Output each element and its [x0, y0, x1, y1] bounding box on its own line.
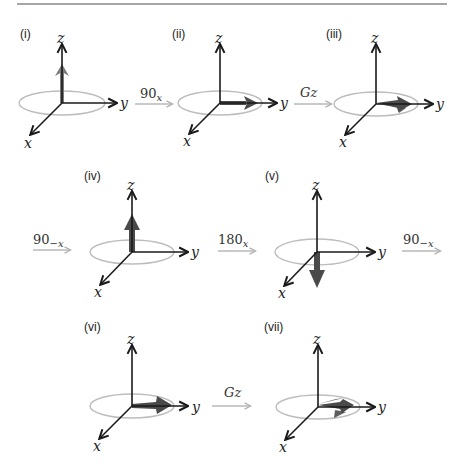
x-axis-label: x — [93, 438, 101, 454]
panel-label: (vii) — [264, 320, 283, 334]
panel-label: (v) — [265, 169, 279, 183]
pulse-arrow-90x: 90x — [135, 86, 172, 104]
panel-ii: (ii) z y x — [172, 27, 289, 149]
y-axis-label: y — [377, 244, 387, 260]
x-axis — [286, 407, 318, 439]
x-axis-label: x — [183, 133, 191, 149]
pulse-label: 180x — [218, 232, 249, 249]
x-axis — [101, 252, 132, 284]
x-axis-label: x — [279, 439, 287, 455]
pulse-arrow-gz: Gz — [294, 85, 331, 104]
y-axis-label: y — [377, 399, 387, 415]
pulse-label: Gz — [300, 85, 317, 100]
pulse-arrow-180x: 180x — [218, 232, 255, 251]
z-axis-label: z — [56, 30, 65, 46]
pulse-label: 90x — [140, 86, 163, 103]
panel-label: (ii) — [172, 27, 185, 41]
y-axis-label: y — [435, 96, 445, 112]
panel-v: (v) z y x — [265, 169, 387, 301]
panel-label: (i) — [20, 27, 31, 41]
pulse-label: 90−x — [403, 232, 434, 249]
panel-vi: (vi) z y x — [84, 320, 201, 454]
panel-iii: (iii) z y x — [326, 27, 445, 150]
pulse-label: Gz — [224, 385, 241, 400]
z-axis-label: z — [312, 331, 321, 347]
x-axis — [31, 103, 62, 134]
x-axis-label: x — [94, 284, 102, 300]
x-axis — [190, 103, 220, 133]
y-axis-label: y — [190, 244, 200, 260]
panel-vii: (vii) z y x — [264, 320, 387, 455]
z-axis-label: z — [126, 331, 135, 347]
pulse-arrow-90minusx: 90−x — [33, 232, 70, 250]
panel-iv: (iv) z y x — [84, 169, 200, 300]
z-axis-label: z — [370, 30, 379, 46]
pulse-arrow-90minusx-2: 90−x — [402, 232, 440, 251]
panel-label: (iv) — [84, 169, 101, 183]
panel-label: (vi) — [84, 320, 101, 334]
y-axis-label: y — [279, 95, 289, 111]
y-axis-label: y — [191, 399, 201, 415]
x-axis — [346, 104, 376, 134]
x-axis-label: x — [24, 135, 32, 151]
panel-label: (iii) — [326, 27, 342, 41]
z-axis-label: z — [126, 177, 135, 193]
z-axis-label: z — [311, 177, 320, 193]
x-axis-label: x — [339, 134, 347, 150]
x-axis — [100, 406, 132, 438]
z-axis-label: z — [214, 30, 223, 46]
x-axis-label: x — [278, 285, 286, 301]
panel-i: (i) z y x — [19, 27, 129, 151]
pulse-arrow-gz-2: Gz — [212, 385, 250, 406]
pulse-label: 90−x — [33, 232, 64, 249]
x-axis — [285, 252, 317, 285]
pulse-sequence-diagram: (i) z y x 90x (ii) z y x Gz — [0, 0, 462, 467]
y-axis-label: y — [119, 95, 129, 111]
